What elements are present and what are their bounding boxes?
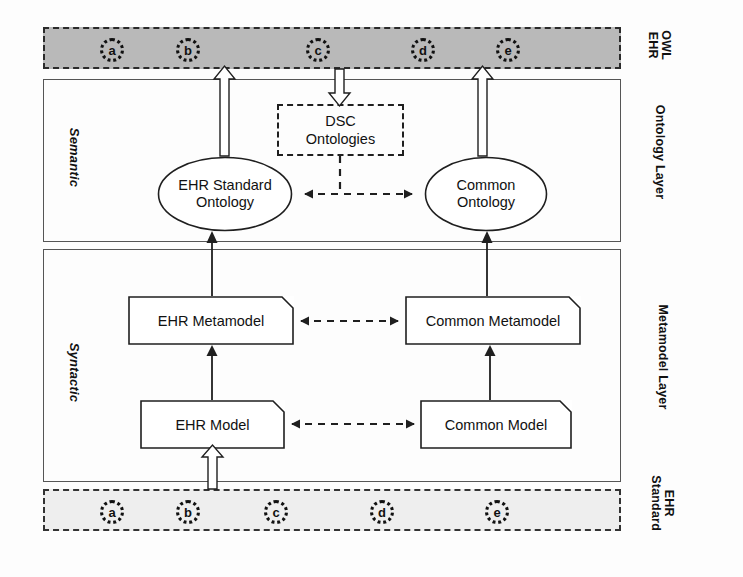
owl-ehr-item-b-label: b <box>184 44 192 57</box>
owl-ehr-item-a: a <box>100 38 124 62</box>
semantic-label-text: Semantic <box>67 123 82 193</box>
common-ontology-line2: Ontology <box>457 194 516 211</box>
owl-ehr-side-label-line2: EHR <box>646 15 659 75</box>
owl-ehr-item-a-label: a <box>108 44 115 57</box>
ehr-standard-band: a b c d e <box>43 489 621 531</box>
metamodel-layer-side-label-text: Metamodel Layer <box>656 300 670 415</box>
dsc-ontologies-box: DSC Ontologies <box>277 104 404 156</box>
ehr-standard-item-a: a <box>100 500 124 524</box>
metamodel-layer-side-label: Metamodel Layer <box>600 330 725 390</box>
owl-ehr-item-c-label: c <box>314 44 321 57</box>
semantic-label: Semantic <box>40 130 110 190</box>
syntactic-label-text: Syntactic <box>67 338 82 408</box>
ehr-standard-item-d-label: d <box>378 506 386 519</box>
ehr-standard-item-b: b <box>176 500 200 524</box>
ehr-standard-item-c-label: c <box>272 506 279 519</box>
owl-ehr-item-e: e <box>496 38 520 62</box>
owl-ehr-item-d: d <box>411 38 435 62</box>
ehr-standard-item-c: c <box>264 500 288 524</box>
owl-ehr-item-c: c <box>306 38 330 62</box>
ehr-standard-item-e-label: e <box>493 506 500 519</box>
ehr-model-box: EHR Model <box>140 400 285 449</box>
ehr-standard-item-b-label: b <box>184 506 192 519</box>
ehr-model-label: EHR Model <box>169 417 255 433</box>
dsc-ontologies-line2: Ontologies <box>306 130 375 148</box>
ontology-layer-side-label-text: Ontology Layer <box>653 102 667 202</box>
ehr-standard-item-a-label: a <box>108 506 115 519</box>
owl-ehr-side-label: OWL EHR <box>614 18 704 78</box>
common-ontology-line1: Common <box>457 177 516 194</box>
owl-ehr-band: a b c d e <box>43 27 621 69</box>
ehr-standard-side-label: EHR Standard <box>614 470 724 550</box>
ehr-metamodel-label: EHR Metamodel <box>152 313 270 329</box>
ehr-standard-ontology-line2: Ontology <box>178 194 272 211</box>
syntactic-label: Syntactic <box>40 345 110 405</box>
diagram-canvas: a b c d e OWL EHR Semantic Ontology Laye… <box>0 0 743 577</box>
ehr-metamodel-box: EHR Metamodel <box>128 296 294 345</box>
common-ontology-node: Common Ontology <box>424 156 548 232</box>
common-model-box: Common Model <box>420 400 572 449</box>
ehr-standard-side-label-line2: Standard <box>648 461 661 546</box>
ontology-layer-side-label: Ontology Layer <box>605 125 715 185</box>
ehr-standard-item-d: d <box>370 500 394 524</box>
owl-ehr-item-e-label: e <box>504 44 511 57</box>
ehr-standard-ontology-node: EHR Standard Ontology <box>157 156 293 232</box>
ehr-standard-side-label-line1: EHR <box>662 461 675 546</box>
common-metamodel-label: Common Metamodel <box>420 313 567 329</box>
owl-ehr-side-label-line1: OWL <box>659 15 672 75</box>
ehr-standard-item-e: e <box>485 500 509 524</box>
owl-ehr-item-b: b <box>176 38 200 62</box>
common-metamodel-box: Common Metamodel <box>405 296 581 345</box>
dsc-ontologies-line1: DSC <box>325 112 356 130</box>
owl-ehr-item-d-label: d <box>419 44 427 57</box>
common-model-label: Common Model <box>439 417 553 433</box>
ehr-standard-ontology-line1: EHR Standard <box>178 177 272 194</box>
